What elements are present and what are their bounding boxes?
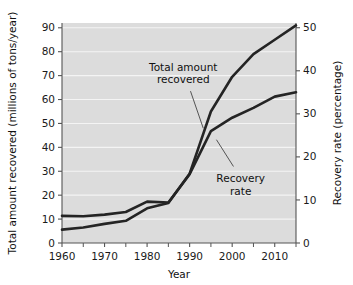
x-axis-tick-label: 1960 [49,250,76,262]
y-axis-left-tick-label: 70 [42,69,55,81]
y-axis-right-tick-label: 50 [303,21,316,33]
y-axis-left-tick-label: 60 [42,93,55,105]
x-axis-tick-label: 2010 [261,250,288,262]
annotation-label-total-amount-recovered: Total amountrecovered [148,61,217,86]
annotation-line: recovered [157,73,210,85]
x-axis-title: Year [167,268,191,280]
y-axis-right-tick-label: 0 [303,237,310,249]
y-axis-right-tick-label: 20 [303,150,316,162]
y-axis-left-tick-label: 40 [42,141,55,153]
y-axis-left-tick-label: 20 [42,189,55,201]
annotation-line: Recovery [216,172,265,184]
y-axis-left-tick-label: 30 [42,165,55,177]
chart-svg: 196019701980199020002010 010203040506070… [0,0,353,285]
annotation-line: rate [230,185,251,197]
annotation-line: Total amount [148,61,217,73]
x-axis-tick-label: 1980 [134,250,161,262]
y-axis-right-title: Recovery rate (percentage) [331,61,343,206]
y-axis-left-tick-label: 90 [42,21,55,33]
chart-figure: 196019701980199020002010 010203040506070… [0,0,353,285]
x-axis-tick-label: 2000 [219,250,246,262]
y-axis-right-tick-label: 10 [303,194,316,206]
y-axis-right-tick-label: 40 [303,64,316,76]
y-axis-left-tick-label: 10 [42,213,55,225]
x-axis-tick-label: 1990 [176,250,203,262]
y-axis-left-tick-label: 80 [42,45,55,57]
y-axis-right-tick-label: 30 [303,107,316,119]
x-axis-tick-label: 1970 [91,250,118,262]
y-axis-left-tick-label: 0 [48,237,55,249]
y-axis-left-tick-label: 50 [42,117,55,129]
y-axis-left-title: Total amount recovered (millions of tons… [6,12,18,256]
plot-area-background [62,23,296,243]
